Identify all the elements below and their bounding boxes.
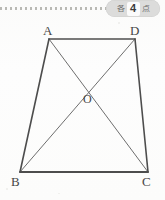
geometry-figure: A D B C O — [0, 0, 165, 200]
vertex-label-a: A — [43, 24, 52, 37]
diagonal-ac — [49, 39, 148, 172]
side-dc — [135, 39, 148, 172]
worksheet-figure-page: 各 4 点 A D B C O — [0, 0, 165, 200]
diagonal-bd — [20, 39, 135, 172]
vertex-label-c: C — [142, 175, 151, 188]
vertex-label-o: O — [83, 93, 92, 105]
vertex-label-b: B — [11, 175, 20, 188]
vertex-label-d: D — [130, 24, 139, 37]
side-ba — [20, 39, 49, 172]
